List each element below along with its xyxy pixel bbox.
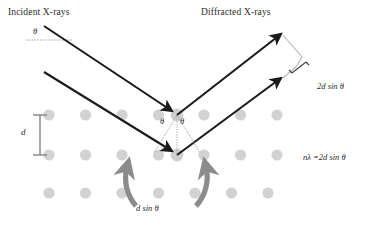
lattice-atom: [271, 109, 282, 120]
lattice-atom: [198, 149, 209, 160]
lattice-atom: [153, 187, 164, 198]
label-bragg-equation: nλ =2d sin θ: [303, 153, 346, 162]
d-spacing-bracket: [33, 115, 47, 155]
label-theta-left: θ: [160, 117, 164, 126]
lattice-atom: [43, 187, 54, 198]
incident-ray-lower: [44, 72, 172, 151]
label-theta-incident: θ: [33, 27, 37, 36]
label-path-difference-total: 2d sin θ: [317, 82, 344, 91]
diagram-canvas: [0, 0, 373, 242]
lattice-atom: [80, 187, 91, 198]
lattice-atom: [80, 149, 91, 160]
diffracted-ray-lower: [177, 78, 281, 155]
lattice-atom: [189, 187, 200, 198]
label-path-difference-half: d sin θ: [136, 204, 159, 213]
label-incident-xrays: Incident X-rays: [8, 8, 70, 18]
incident-rays: [44, 26, 172, 151]
path-difference-indicator: [283, 35, 302, 78]
lattice-row-2: [43, 149, 282, 162]
lattice-atom: [262, 187, 273, 198]
bragg-diffraction-figure: Incident X-rays Diffracted X-rays θ θ θ …: [0, 0, 373, 242]
path-difference-connector: [283, 67, 296, 78]
curved-arrows: [126, 167, 208, 206]
path-difference-outline: [283, 35, 302, 67]
diffracted-rays: [177, 34, 281, 155]
diffracted-ray-upper: [177, 34, 281, 115]
label-theta-right: θ: [180, 117, 184, 126]
lattice-atom: [226, 187, 237, 198]
lattice-atom: [198, 109, 209, 120]
path-difference-brace: [289, 62, 309, 73]
lattice-atom: [80, 109, 91, 120]
lattice-atom: [116, 149, 127, 160]
curved-arrow-left: [126, 167, 136, 206]
label-d-spacing: d: [21, 128, 26, 137]
lattice-row-3: [43, 187, 273, 198]
label-diffracted-xrays: Diffracted X-rays: [201, 8, 271, 18]
brace-stroke: [292, 62, 309, 73]
lattice-atom: [271, 149, 282, 160]
lattice-atom: [235, 149, 246, 160]
lattice-atom: [153, 149, 164, 160]
curved-arrow-right: [196, 167, 207, 206]
incident-ray-upper: [44, 26, 172, 111]
